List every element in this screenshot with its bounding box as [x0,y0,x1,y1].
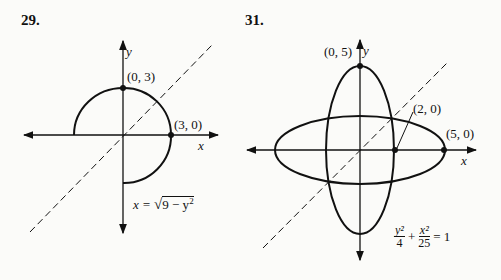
y-axis-label: y [126,44,132,60]
point-label: (2, 0) [413,101,441,117]
line-y-equals-x [263,61,449,248]
point-label: (5, 0) [446,126,474,142]
y-axis-label: y [363,43,369,59]
point-label: (0, 3) [127,69,155,85]
point-0-5 [357,63,363,69]
point-label: (3, 0) [174,117,202,133]
x-axis-label: x [198,138,204,154]
figure-number: 29. [21,12,40,29]
equation-label: y²4 + x²25 = 1 [394,224,450,249]
point-0-3 [120,85,126,91]
equation-label: x = √9 − y2 [133,196,194,213]
x-axis-label: x [461,153,467,169]
figure-number: 31. [245,12,264,29]
leader-line-2-0 [397,112,413,148]
point-5-0 [441,147,447,153]
point-label: (0, 5) [324,44,352,60]
point-2-0 [392,147,398,153]
